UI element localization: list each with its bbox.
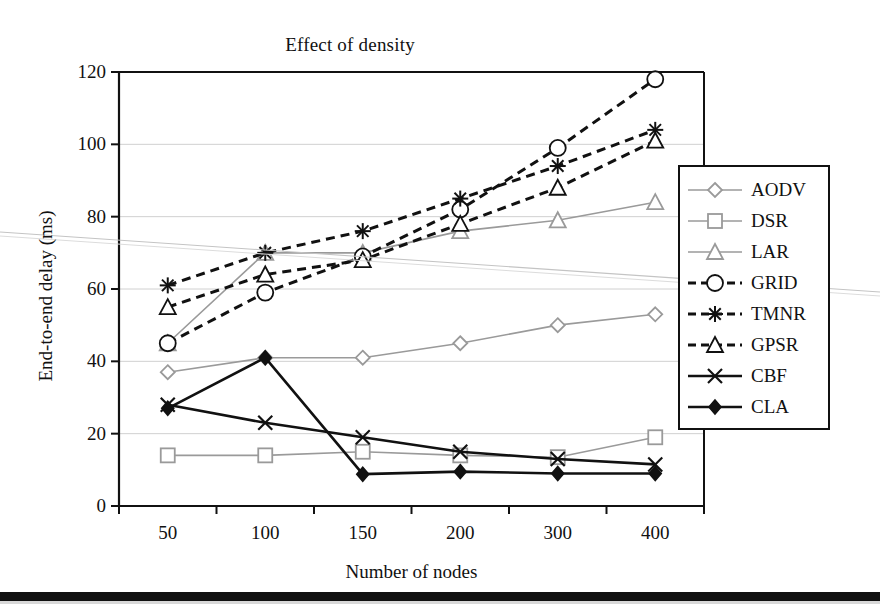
y-tick-label: 40 <box>48 351 106 370</box>
data-point-marker <box>551 450 565 464</box>
y-tick-label: 100 <box>48 134 106 153</box>
legend-label: DSR <box>744 210 788 232</box>
data-point-marker <box>454 465 466 479</box>
legend-item-grid[interactable]: GRID <box>680 267 828 298</box>
data-point-marker <box>161 365 175 379</box>
series-aodv <box>161 307 663 379</box>
data-point-marker <box>257 285 273 301</box>
y-tick-label: 80 <box>48 207 106 226</box>
data-point-marker <box>453 336 467 350</box>
data-point-marker <box>552 466 564 480</box>
legend-marker-icon <box>686 241 744 263</box>
data-point-marker <box>647 71 663 87</box>
legend-marker-icon <box>686 396 744 418</box>
series-line <box>168 358 656 474</box>
series-line <box>168 130 656 286</box>
data-point-marker <box>356 445 370 459</box>
legend-label: GPSR <box>744 334 799 356</box>
series-line <box>168 437 656 457</box>
x-tick-label: 200 <box>425 523 495 542</box>
legend-item-dsr[interactable]: DSR <box>680 205 828 236</box>
data-point-marker <box>162 401 174 415</box>
y-tick-label: 20 <box>48 424 106 443</box>
y-tick-label: 0 <box>48 496 106 515</box>
data-point-marker <box>707 275 723 291</box>
x-tick-label: 100 <box>230 523 300 542</box>
legend-item-tmnr[interactable]: TMNR <box>680 298 828 329</box>
y-tick-label: 120 <box>48 62 106 81</box>
chart-figure: Effect of density End-to-end delay (ms) … <box>0 0 880 615</box>
data-point-marker <box>161 448 175 462</box>
x-axis-title: Number of nodes <box>119 561 704 583</box>
legend-label: CBF <box>744 365 787 387</box>
x-tick-label: 300 <box>523 523 593 542</box>
data-point-marker <box>550 140 566 156</box>
page-edge-shadow <box>0 601 880 604</box>
legend-label: CLA <box>744 396 789 418</box>
chart-title: Effect of density <box>0 34 700 56</box>
data-point-marker <box>709 400 721 414</box>
page-edge-bar <box>0 592 880 601</box>
legend-marker-icon <box>686 272 744 294</box>
data-point-marker <box>708 183 722 197</box>
data-point-marker <box>648 430 662 444</box>
series-cbf <box>161 398 663 472</box>
legend-marker-icon <box>686 365 744 387</box>
legend-item-cbf[interactable]: CBF <box>680 360 828 391</box>
legend-item-cla[interactable]: CLA <box>680 391 828 422</box>
gridlines <box>119 72 704 434</box>
series-tmnr <box>160 122 664 294</box>
series-line <box>168 141 656 307</box>
legend-label: TMNR <box>744 303 806 325</box>
data-point-marker <box>452 216 468 231</box>
series-dsr <box>161 430 663 464</box>
legend-marker-icon <box>686 179 744 201</box>
x-tick-label: 150 <box>328 523 398 542</box>
x-tick-label: 50 <box>133 523 203 542</box>
data-point-marker <box>648 307 662 321</box>
data-point-marker <box>550 180 566 195</box>
x-tick-label: 400 <box>620 523 690 542</box>
legend-item-gpsr[interactable]: GPSR <box>680 329 828 360</box>
series-line <box>168 79 656 343</box>
series-line <box>168 314 656 372</box>
axes <box>111 72 704 514</box>
y-tick-label: 60 <box>48 279 106 298</box>
legend-label: GRID <box>744 272 797 294</box>
data-point-marker <box>160 335 176 351</box>
data-point-marker <box>708 214 722 228</box>
legend-label: AODV <box>744 179 806 201</box>
data-point-marker <box>258 448 272 462</box>
data-point-marker <box>551 318 565 332</box>
legend-item-aodv[interactable]: AODV <box>680 174 828 205</box>
legend-marker-icon <box>686 210 744 232</box>
legend-marker-icon <box>686 303 744 325</box>
chart-legend: AODVDSRLARGRIDTMNRGPSRCBFCLA <box>678 165 830 430</box>
series-gpsr <box>160 133 664 314</box>
data-point-marker <box>356 351 370 365</box>
series-grid <box>160 71 664 351</box>
legend-marker-icon <box>686 334 744 356</box>
legend-item-lar[interactable]: LAR <box>680 236 828 267</box>
data-point-marker <box>647 194 663 209</box>
legend-label: LAR <box>744 241 789 263</box>
